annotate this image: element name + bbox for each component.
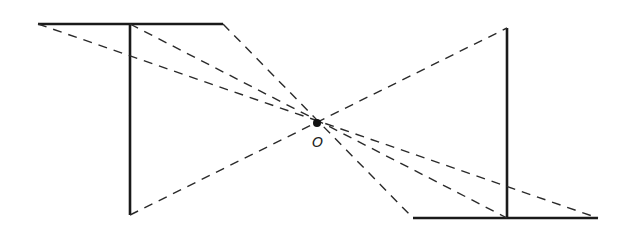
center-label: O (312, 134, 323, 150)
center-point-o (313, 119, 321, 127)
inversion-diagram: O (0, 0, 635, 229)
